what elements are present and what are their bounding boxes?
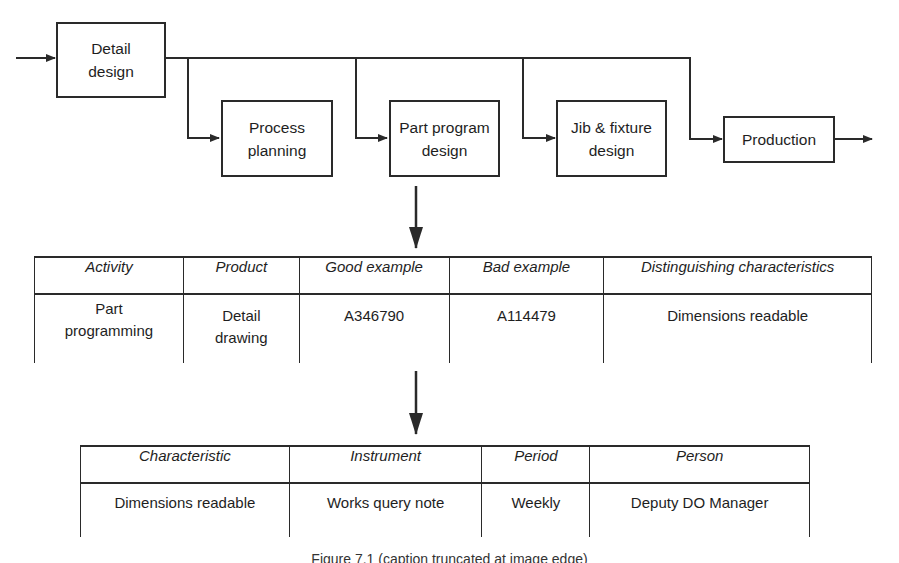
box-detail-design: Detail design bbox=[56, 22, 166, 98]
table-monitoring: Characteristic Instrument Period Person … bbox=[80, 445, 810, 537]
table1-header-activity: Activity bbox=[35, 257, 184, 294]
table1-cell-bad-example: A114479 bbox=[449, 294, 604, 363]
branch-to-jib-fixture bbox=[523, 58, 555, 138]
table1-header-row: Activity Product Good example Bad exampl… bbox=[35, 257, 872, 294]
box-production: Production bbox=[723, 116, 835, 163]
table1-cell-activity: Part programming bbox=[35, 294, 184, 363]
table2-header-row: Characteristic Instrument Period Person bbox=[81, 446, 810, 483]
table1-header-bad-example: Bad example bbox=[449, 257, 604, 294]
table1-cell-good-example: A346790 bbox=[299, 294, 449, 363]
table2-header-instrument: Instrument bbox=[289, 446, 482, 483]
table1-header-product: Product bbox=[183, 257, 299, 294]
branch-to-production bbox=[690, 58, 722, 139]
table2-cell-period: Weekly bbox=[482, 483, 590, 537]
box-part-program-design: Part program design bbox=[389, 100, 500, 177]
table2-cell-person: Deputy DO Manager bbox=[590, 483, 810, 537]
table-row: Dimensions readable Works query note Wee… bbox=[81, 483, 810, 537]
box-process-planning: Process planning bbox=[221, 100, 333, 177]
figure-caption: Figure 7.1 (caption truncated at image e… bbox=[0, 551, 899, 563]
box-jib-fixture-design: Jib & fixture design bbox=[556, 100, 667, 177]
table1-header-distinguishing-characteristics: Distinguishing characteristics bbox=[604, 257, 872, 294]
table2-cell-characteristic: Dimensions readable bbox=[81, 483, 290, 537]
table1-cell-product: Detail drawing bbox=[183, 294, 299, 363]
table1-cell-distinguishing: Dimensions readable bbox=[604, 294, 872, 363]
branch-to-process-planning bbox=[188, 58, 219, 138]
table2-cell-instrument: Works query note bbox=[289, 483, 482, 537]
table2-header-characteristic: Characteristic bbox=[81, 446, 290, 483]
table2-header-person: Person bbox=[590, 446, 810, 483]
table-activity-examples: Activity Product Good example Bad exampl… bbox=[34, 256, 872, 363]
table-row: Part programming Detail drawing A346790 … bbox=[35, 294, 872, 363]
table2-header-period: Period bbox=[482, 446, 590, 483]
table1-header-good-example: Good example bbox=[299, 257, 449, 294]
branch-to-part-program bbox=[356, 58, 387, 138]
